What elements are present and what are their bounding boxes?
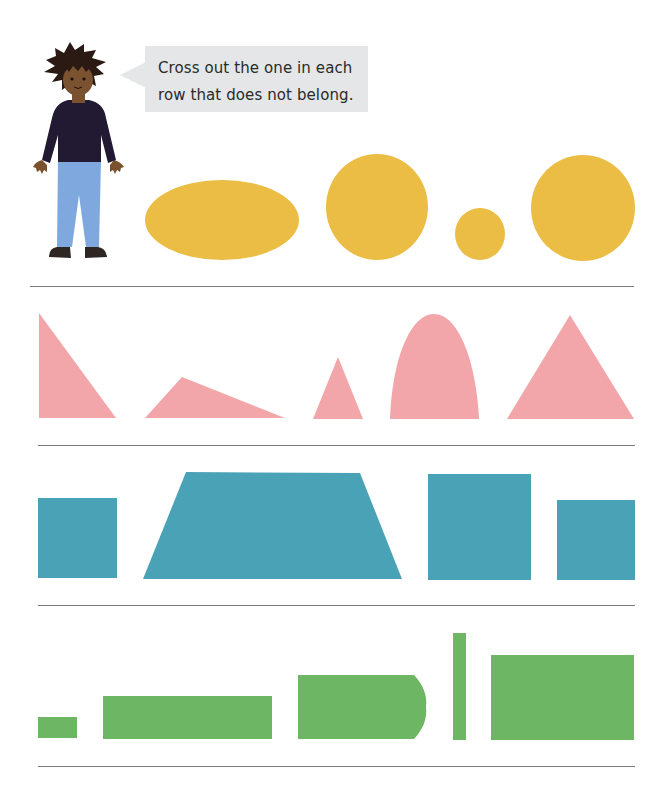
shape-rounded-end-rectangle[interactable] <box>298 675 426 739</box>
shape-obtuse-triangle[interactable] <box>145 377 285 418</box>
left-shoe <box>49 247 71 258</box>
shape-tall-thin-rectangle[interactable] <box>453 633 466 740</box>
shape-small-triangle[interactable] <box>313 357 363 419</box>
left-hand <box>33 160 47 174</box>
instruction-line-2: row that does not belong. <box>158 82 373 109</box>
row-divider-2 <box>38 445 635 446</box>
row-divider-1 <box>30 286 634 287</box>
instruction-line-1: Cross out the one in each <box>158 55 373 82</box>
instruction-text: Cross out the one in each row that does … <box>158 55 373 109</box>
row-triangles[interactable] <box>39 313 634 419</box>
row-divider-3 <box>38 605 635 606</box>
shape-trapezoid[interactable] <box>143 472 402 579</box>
shape-circle-1[interactable] <box>326 154 428 260</box>
pants <box>57 160 101 247</box>
shape-triangle[interactable] <box>507 315 634 419</box>
shape-rectangle[interactable] <box>491 655 634 740</box>
row-ovals-and-circles[interactable] <box>145 154 635 261</box>
shape-right-triangle[interactable] <box>39 313 116 418</box>
right-eye <box>82 77 85 80</box>
row-squares[interactable] <box>38 472 635 580</box>
shape-small-circle[interactable] <box>455 208 505 260</box>
shape-arch[interactable] <box>390 314 479 419</box>
shape-square-3[interactable] <box>557 500 635 580</box>
right-hand <box>110 160 124 174</box>
child-character <box>33 42 124 258</box>
shape-long-rectangle[interactable] <box>103 696 272 739</box>
worksheet-canvas <box>0 0 666 799</box>
row-rectangles[interactable] <box>38 633 634 740</box>
shape-square-1[interactable] <box>38 498 117 578</box>
shape-square-2[interactable] <box>428 474 531 580</box>
shirt <box>42 100 116 163</box>
right-shoe <box>85 247 107 258</box>
shape-ellipse[interactable] <box>145 180 299 260</box>
speech-bubble-tail <box>120 62 146 88</box>
shape-circle-2[interactable] <box>531 155 635 261</box>
row-divider-4 <box>38 766 635 767</box>
shape-small-rectangle[interactable] <box>38 717 77 738</box>
left-eye <box>70 77 73 80</box>
